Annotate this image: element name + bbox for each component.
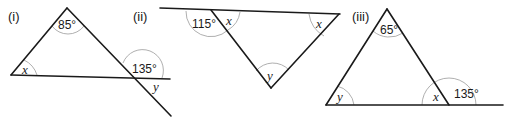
figure-iii-label: (iii)	[352, 9, 369, 24]
angle-diagrams: (i) 85° x 135° y (ii) 115° x x y (iii) 6…	[0, 0, 512, 120]
figure-ii-label: (ii)	[133, 9, 147, 24]
figure-i: (i) 85° x 135° y	[8, 8, 171, 116]
vertical-angle-label: y	[151, 79, 159, 94]
apex-angle-label: 85°	[58, 18, 76, 32]
triangle-right-side	[271, 14, 339, 88]
left-interior-angle-label: x	[225, 13, 232, 28]
figure-i-label: (i)	[8, 9, 20, 24]
left-angle-label: x	[21, 62, 28, 77]
left-angle-label: y	[335, 89, 343, 104]
exterior-angle-label: 135°	[454, 87, 479, 101]
figure-ii: (ii) 115° x x y	[133, 8, 340, 88]
bottom-angle-label: y	[265, 68, 273, 83]
right-interior-angle-label: x	[315, 16, 322, 31]
exterior-angle-label: 135°	[132, 62, 157, 76]
figure-iii: (iii) 65° y x 135°	[326, 9, 503, 105]
right-interior-angle-label: x	[432, 89, 439, 104]
top-line	[160, 8, 340, 14]
triangle-left-side	[211, 10, 271, 88]
apex-angle-label: 65°	[380, 23, 398, 37]
exterior-angle-label: 115°	[192, 17, 216, 31]
